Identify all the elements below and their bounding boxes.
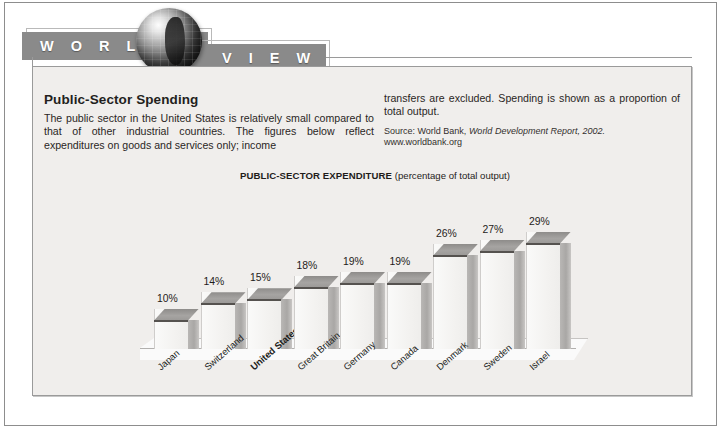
- bar-top-rim: [480, 251, 514, 253]
- banner-rule-horizontal: [326, 57, 692, 58]
- chart-title-main: PUBLIC-SECTOR EXPENDITURE: [240, 170, 392, 181]
- bar-top-rim: [387, 283, 421, 285]
- source-report-title: World Development Report, 2002.: [469, 126, 605, 136]
- chart-title-subtitle: (percentage of total output): [395, 170, 510, 181]
- bar-value-label: 18%: [297, 260, 318, 271]
- bar-value-label: 26%: [436, 228, 457, 239]
- globe-landmass: [165, 17, 185, 65]
- article-body-right-text: transfers are excluded. Spending is show…: [384, 92, 680, 119]
- source-prefix: Source: World Bank,: [384, 126, 469, 136]
- source-line: Source: World Bank, World Development Re…: [384, 126, 680, 138]
- page-root: W O R L D V I E W Public-Sector Spending…: [0, 0, 725, 434]
- bar-top-rim: [294, 287, 328, 289]
- bar-side-face: [467, 255, 478, 349]
- bar-top-rim: [340, 283, 374, 285]
- bar-canada: [387, 272, 421, 349]
- bar-sweden: [480, 240, 514, 349]
- bar-chart: PUBLIC-SECTOR EXPENDITURE (percentage of…: [44, 170, 664, 392]
- bar-value-label: 19%: [343, 256, 364, 267]
- bar-denmark: [433, 244, 467, 349]
- bar-top-rim: [247, 299, 281, 301]
- bar-value-label: 10%: [157, 293, 178, 304]
- bar-great-britain: [294, 276, 328, 349]
- bar-top-rim: [154, 320, 188, 322]
- bar-side-face: [421, 283, 432, 349]
- bar-japan: [154, 309, 188, 350]
- bar-israel: [526, 232, 560, 349]
- bar-value-label: 15%: [250, 272, 271, 283]
- chart-title: PUBLIC-SECTOR EXPENDITURE (percentage of…: [240, 170, 510, 181]
- article-body-right: transfers are excluded. Spending is show…: [384, 92, 680, 149]
- banner-rule-vertical: [32, 57, 33, 66]
- bar-value-label: 14%: [204, 276, 225, 287]
- page-title: Public-Sector Spending: [44, 92, 198, 107]
- bar-side-face: [560, 243, 571, 349]
- bar-germany: [340, 272, 374, 349]
- bar-front-face: [433, 244, 468, 349]
- bar-front-face: [480, 240, 515, 349]
- bar-top-rim: [526, 243, 560, 245]
- bar-top-rim: [201, 303, 235, 305]
- source-url: www.worldbank.org: [384, 137, 680, 149]
- bar-side-face: [514, 251, 525, 349]
- bar-side-face: [374, 283, 385, 349]
- bar-side-face: [188, 320, 199, 350]
- article-body-left: The public sector in the United States i…: [44, 112, 374, 152]
- bar-value-label: 29%: [529, 216, 550, 227]
- globe-icon: [136, 8, 202, 74]
- bar-value-label: 27%: [483, 224, 504, 235]
- chart-plot-area: 10%Japan14%Switzerland15%United States18…: [44, 188, 664, 392]
- bar-value-label: 19%: [390, 256, 411, 267]
- bar-front-face: [526, 232, 561, 349]
- bar-top-rim: [433, 255, 467, 257]
